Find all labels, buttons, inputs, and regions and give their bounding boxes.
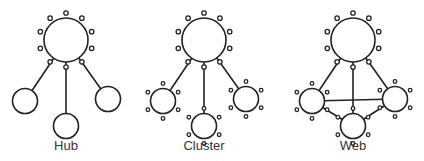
satellite-node	[295, 90, 299, 94]
satellite-node	[367, 16, 371, 20]
satellite-node	[408, 88, 412, 92]
satellite-node	[48, 60, 52, 64]
satellite-node	[325, 108, 329, 112]
satellite-node	[48, 16, 52, 20]
satellite-node	[366, 115, 370, 119]
satellite-node	[310, 82, 314, 86]
satellite-node	[244, 115, 248, 119]
satellite-node	[408, 106, 412, 110]
child-node	[341, 114, 366, 139]
satellite-node	[366, 133, 370, 137]
child-node	[151, 89, 176, 114]
satellite-node	[202, 65, 206, 69]
satellite-node	[217, 133, 221, 137]
child-node	[192, 114, 217, 139]
satellite-node	[259, 88, 263, 92]
satellite-node	[64, 65, 68, 69]
child-node	[96, 87, 121, 112]
satellite-node	[80, 60, 84, 64]
web-label: Web	[340, 138, 367, 153]
web-topology	[295, 11, 412, 146]
satellite-node	[218, 60, 222, 64]
satellite-node	[218, 16, 222, 20]
satellite-node	[38, 29, 42, 33]
satellite-node	[367, 60, 371, 64]
satellite-node	[325, 90, 329, 94]
satellite-node	[161, 117, 165, 121]
satellite-node	[186, 16, 190, 20]
satellite-node	[376, 29, 380, 33]
hub-label: Hub	[54, 138, 78, 153]
cluster-label: Cluster	[183, 138, 225, 153]
satellite-node	[229, 88, 233, 92]
satellite-node	[335, 16, 339, 20]
satellite-node	[351, 107, 355, 111]
satellite-node	[227, 29, 231, 33]
satellite-node	[202, 11, 206, 15]
satellite-node	[176, 90, 180, 94]
satellite-node	[378, 106, 382, 110]
satellite-node	[393, 80, 397, 84]
satellite-node	[80, 16, 84, 20]
hub-topology	[13, 11, 121, 139]
satellite-node	[38, 46, 42, 50]
satellite-node	[187, 133, 191, 137]
satellite-node	[176, 108, 180, 112]
satellite-node	[202, 107, 206, 111]
child-node	[234, 87, 259, 112]
satellite-node	[89, 29, 93, 33]
satellite-node	[176, 29, 180, 33]
satellite-node	[176, 46, 180, 50]
hub-node	[331, 18, 375, 62]
satellite-node	[161, 82, 165, 86]
satellite-node	[325, 29, 329, 33]
satellite-node	[227, 46, 231, 50]
satellite-node	[376, 46, 380, 50]
satellite-node	[229, 106, 233, 110]
satellite-node	[217, 115, 221, 119]
child-node	[300, 89, 325, 114]
satellite-node	[89, 46, 93, 50]
satellite-node	[64, 11, 68, 15]
satellite-node	[335, 60, 339, 64]
child-node	[54, 114, 79, 139]
satellite-node	[336, 115, 340, 119]
cluster-topology	[146, 11, 263, 146]
satellite-node	[378, 88, 382, 92]
satellite-node	[336, 133, 340, 137]
hub-node	[182, 18, 226, 62]
network-topologies-diagram: Hub Cluster Web	[0, 0, 424, 161]
satellite-node	[351, 11, 355, 15]
satellite-node	[259, 106, 263, 110]
satellite-node	[186, 60, 190, 64]
satellite-node	[295, 108, 299, 112]
satellite-node	[244, 80, 248, 84]
satellite-node	[351, 65, 355, 69]
satellite-node	[393, 115, 397, 119]
child-node	[383, 87, 408, 112]
child-node	[13, 89, 38, 114]
satellite-node	[325, 46, 329, 50]
satellite-node	[146, 90, 150, 94]
satellite-node	[187, 115, 191, 119]
satellite-node	[146, 108, 150, 112]
satellite-node	[310, 117, 314, 121]
hub-node	[44, 18, 88, 62]
